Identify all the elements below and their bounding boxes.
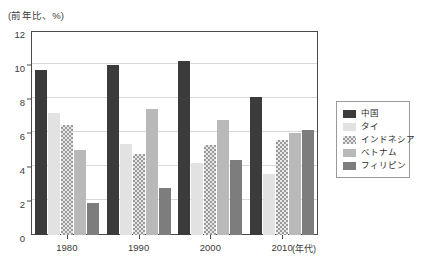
- bar-china-1980[interactable]: [35, 70, 47, 235]
- y-tick-label-0: 0: [20, 233, 25, 238]
- y-tick-label-4: 4: [20, 165, 25, 170]
- bar-thai-2010[interactable]: [263, 174, 275, 235]
- legend-item-thai[interactable]: タイ: [343, 120, 404, 133]
- bars-layer: [31, 31, 318, 235]
- legend-item-vietnam[interactable]: ベトナム: [343, 146, 404, 159]
- y-tick-label-2: 2: [20, 199, 25, 204]
- bar-indonesia-2000[interactable]: [204, 145, 216, 235]
- legend: 中国タイインドネシアベトナムフィリピン: [336, 101, 410, 178]
- bar-indonesia-1990[interactable]: [133, 154, 145, 235]
- legend-item-china[interactable]: 中国: [343, 107, 404, 120]
- bar-vietnam-2010[interactable]: [289, 133, 301, 235]
- y-tick-label-10: 10: [14, 63, 25, 68]
- legend-swatch-philippines-icon: [343, 162, 356, 170]
- bar-philippines-2000[interactable]: [230, 160, 242, 235]
- bar-thai-1980[interactable]: [48, 113, 60, 235]
- legend-swatch-vietnam-icon: [343, 149, 356, 157]
- x-tickmark-1980: [67, 235, 68, 239]
- x-tick-label-2000: 2000: [200, 242, 221, 253]
- legend-label-philippines: フィリピン: [361, 161, 406, 170]
- legend-label-china: 中国: [361, 109, 379, 118]
- legend-item-indonesia[interactable]: インドネシア: [343, 133, 404, 146]
- x-tickmark-1990: [139, 235, 140, 239]
- bar-thai-1990[interactable]: [120, 144, 132, 235]
- x-tickmark-2000: [210, 235, 211, 239]
- bar-indonesia-1980[interactable]: [61, 125, 73, 236]
- legend-label-thai: タイ: [361, 122, 379, 131]
- x-axis: 1980199020002010(年代): [31, 235, 318, 261]
- bar-philippines-2010[interactable]: [302, 130, 314, 235]
- legend-swatch-china-icon: [343, 110, 356, 118]
- y-axis-unit-label: (前年比、%): [8, 8, 64, 22]
- bar-philippines-1980[interactable]: [87, 203, 99, 235]
- legend-label-indonesia: インドネシア: [361, 135, 415, 144]
- bar-vietnam-2000[interactable]: [217, 120, 229, 235]
- y-tick-label-8: 8: [20, 97, 25, 102]
- x-tickmark-2010: [282, 235, 283, 239]
- legend-item-philippines[interactable]: フィリピン: [343, 159, 404, 172]
- x-tick-label-2010: 2010: [272, 242, 293, 253]
- y-tick-label-6: 6: [20, 131, 25, 136]
- bar-vietnam-1980[interactable]: [74, 150, 86, 235]
- bar-thai-2000[interactable]: [191, 163, 203, 235]
- y-axis: 024681012: [0, 31, 31, 235]
- legend-label-vietnam: ベトナム: [361, 148, 397, 157]
- bar-group-2010: [250, 31, 314, 235]
- bar-group-2000: [178, 31, 242, 235]
- y-tick-label-12: 12: [14, 29, 25, 34]
- legend-swatch-indonesia-icon: [343, 136, 356, 144]
- x-tick-label-1980: 1980: [56, 242, 77, 253]
- bar-indonesia-2010[interactable]: [276, 140, 288, 235]
- bar-vietnam-1990[interactable]: [146, 109, 158, 235]
- x-axis-unit-label: (年代): [292, 242, 316, 255]
- legend-swatch-thai-icon: [343, 123, 356, 131]
- bar-china-2000[interactable]: [178, 61, 190, 235]
- x-tick-label-1990: 1990: [128, 242, 149, 253]
- bar-china-1990[interactable]: [107, 65, 119, 235]
- bar-philippines-1990[interactable]: [159, 188, 171, 235]
- bar-group-1990: [107, 31, 171, 235]
- bar-group-1980: [35, 31, 99, 235]
- bar-china-2010[interactable]: [250, 97, 262, 235]
- bar-chart: (前年比、%) 024681012 1980199020002010(年代) 中…: [0, 0, 442, 277]
